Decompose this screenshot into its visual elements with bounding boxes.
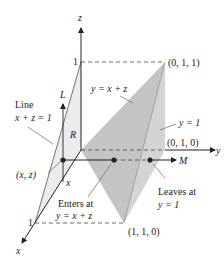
label-line-eq: x + z = 1 [14, 112, 52, 123]
label-enters-2: y = x + z [55, 210, 92, 221]
label-010: (0, 1, 0) [167, 137, 199, 149]
label-xz: (x, z) [16, 169, 37, 181]
label-x-small: x [65, 177, 71, 188]
leader-line-eq [28, 127, 53, 144]
point-enter [111, 157, 116, 162]
z-axis-label: z [77, 12, 82, 23]
point-xz [60, 157, 65, 162]
leader-leaves [153, 164, 165, 178]
label-leaves-2: y = 1 [157, 199, 179, 210]
x-axis-label: x [15, 245, 21, 256]
x-tick-1: 1 [28, 217, 33, 228]
tetrahedron-integration-diagram: z y x 1 1 (0, 1, 1) (0, 1, 0) (1, 1, 0) … [0, 0, 224, 263]
label-M: M [178, 155, 188, 166]
label-plane-y1: y = 1 [178, 117, 200, 128]
label-enters-1: Enters at [58, 198, 93, 209]
label-L: L [59, 89, 66, 100]
point-leave [147, 157, 152, 162]
label-011: (0, 1, 1) [168, 57, 200, 69]
label-leaves-1: Leaves at [158, 186, 196, 197]
label-plane-eq: y = x + z [90, 83, 127, 94]
label-line-title: Line [15, 99, 34, 110]
y-axis-label: y [215, 145, 221, 156]
z-tick-1: 1 [73, 56, 78, 67]
label-110: (1, 1, 0) [128, 226, 160, 238]
label-R: R [69, 129, 76, 140]
